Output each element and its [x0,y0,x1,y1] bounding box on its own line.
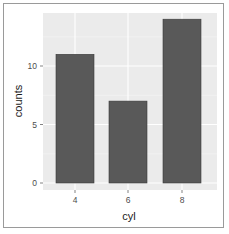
x-tick-label-8: 8 [180,195,185,205]
x-axis-ticks [75,190,182,193]
x-tick-label-6: 6 [126,195,131,205]
bar-cyl-8 [163,19,201,183]
x-tick-label-4: 4 [73,195,78,205]
bar-chart: 0 5 10 4 6 8 cyl counts [0,0,229,234]
bar-cyl-4 [56,54,94,183]
y-tick-label-10: 10 [28,61,38,71]
x-axis-title: cyl [122,210,135,222]
y-axis-ticks [40,66,43,183]
bar-cyl-6 [109,101,147,183]
y-tick-label-0: 0 [32,178,37,188]
y-tick-label-5: 5 [32,120,37,130]
y-axis-title: counts [12,84,24,117]
